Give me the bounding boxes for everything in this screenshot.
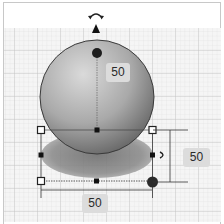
corner-handle-top-left[interactable]	[38, 127, 45, 134]
top-height-label[interactable]: 50	[106, 63, 130, 82]
side-handle-right[interactable]	[150, 153, 155, 158]
bottom-width-label[interactable]: 50	[82, 194, 108, 213]
3d-viewport[interactable]: 50 50 50	[0, 0, 224, 222]
corner-handle-bottom-left[interactable]	[38, 178, 45, 185]
center-handle[interactable]	[95, 128, 100, 133]
top-height-handle[interactable]	[92, 48, 102, 58]
rotate-arrow-icon[interactable]	[88, 14, 104, 20]
side-handle-bottom[interactable]	[94, 179, 99, 184]
side-height-label[interactable]: 50	[183, 148, 210, 167]
side-handle-left[interactable]	[39, 153, 44, 158]
scene-canvas[interactable]	[0, 0, 224, 222]
